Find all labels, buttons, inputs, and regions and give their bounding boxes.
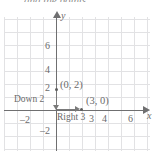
tick-label-y--2: –2 xyxy=(40,125,50,136)
tick-label-y-4: 4 xyxy=(45,64,50,75)
annotation-down-2: Down 2 xyxy=(14,94,44,104)
tick-label-x-6: 6 xyxy=(128,113,133,124)
grid-line-horizontal xyxy=(4,32,150,33)
tick-label-x-3: 3 xyxy=(89,113,94,124)
grid-line-horizontal xyxy=(4,45,150,46)
grid-line-horizontal xyxy=(4,149,150,150)
grid-line-horizontal xyxy=(4,19,150,20)
grid-line-horizontal xyxy=(4,58,150,59)
right-slope-segment xyxy=(57,109,77,110)
coordinate-plane-figure: and the points. x y –2346642–2 Down 2Rig… xyxy=(0,0,159,154)
grid-line-horizontal xyxy=(4,71,150,72)
tick-label-y-6: 6 xyxy=(45,40,50,51)
cutoff-header-text: and the points. xyxy=(24,0,134,2)
y-axis-arrow-icon xyxy=(53,11,61,18)
y-axis-label: y xyxy=(61,10,65,21)
point-y-intercept xyxy=(55,88,58,91)
point-label-x-intercept: (3, 0) xyxy=(86,95,109,106)
tick-label-x-4: 4 xyxy=(102,113,107,124)
point-x-intercept xyxy=(80,108,83,111)
grid-line-horizontal xyxy=(4,136,150,137)
point-label-y-intercept: (0, 2) xyxy=(60,79,83,90)
tick-label-x--2: –2 xyxy=(20,114,30,125)
y-axis xyxy=(56,14,57,151)
x-axis-label: x xyxy=(147,110,151,121)
tick-label-y-2: 2 xyxy=(45,82,50,93)
annotation-right-3: Right 3 xyxy=(57,112,85,122)
